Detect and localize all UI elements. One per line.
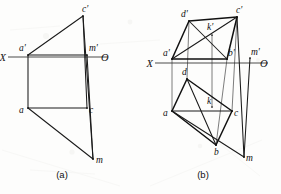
vertex-b-prime: [226, 58, 228, 60]
vertex-m-prime: [249, 57, 251, 59]
projector-cp-to-c: [232, 17, 237, 111]
point-label-b-prime: b': [228, 48, 236, 58]
point-label-a-prime: a': [163, 48, 171, 58]
vertex-d-prime: [188, 20, 190, 22]
point-label-m: m: [246, 153, 253, 163]
vertex-a: [171, 110, 173, 112]
vertex-c-prime: [236, 16, 238, 18]
panel-caption-a: (a): [56, 169, 68, 180]
vertex-a-prime: [171, 58, 173, 60]
vertex-c: [86, 107, 88, 109]
point-label-a: a: [19, 105, 24, 115]
vertex-k-prime: [211, 34, 213, 36]
panel-a: XOa'c'm'acm(a): [0, 4, 109, 180]
point-label-k-prime: k': [207, 22, 214, 32]
vertex-m-prime: [86, 54, 88, 56]
panel-b: XOd'c'k'a'b'm'dakcbm(b): [146, 5, 268, 180]
axis-label-x: X: [0, 52, 7, 63]
point-label-a-prime: a': [19, 43, 27, 53]
vertex-a: [27, 107, 29, 109]
vertex-m: [243, 156, 245, 158]
vertex-b: [215, 144, 217, 146]
vertex-m: [92, 158, 94, 160]
point-label-m: m: [96, 155, 103, 165]
vertex-k: [211, 106, 213, 108]
edge-a-m: [28, 108, 93, 159]
axis-label-o: O: [260, 58, 268, 69]
edge-cp-m: [237, 17, 244, 157]
axis-label-o: O: [101, 52, 109, 63]
point-label-a: a: [163, 108, 168, 118]
projector-dp-to-d: [187, 21, 189, 79]
vertex-c-prime: [82, 15, 84, 17]
vertex-d: [186, 78, 188, 80]
edge-ap-cp: [28, 16, 83, 55]
point-label-d-prime: d': [181, 9, 189, 19]
edge-dp-cp: [189, 17, 237, 21]
vertex-c: [231, 110, 233, 112]
edge-a-d: [172, 79, 187, 111]
figure-canvas: XOa'c'm'acm(a)XOd'c'k'a'b'm'dakcbm(b): [0, 0, 281, 194]
point-label-m-prime: m': [89, 43, 99, 53]
edge-mp-m: [244, 58, 250, 157]
projection-drawing: XOa'c'm'acm(a)XOd'c'k'a'b'm'dakcbm(b): [0, 0, 281, 194]
edge-b-a: [172, 111, 216, 145]
point-label-c: c: [234, 108, 239, 118]
axis-label-x: X: [146, 58, 154, 69]
point-label-k: k: [207, 96, 212, 106]
vertex-a-prime: [27, 54, 29, 56]
point-label-d: d: [182, 67, 187, 77]
point-label-c: c: [89, 105, 94, 115]
point-label-b: b: [214, 147, 219, 157]
point-label-m-prime: m': [251, 47, 261, 57]
point-label-c-prime: c': [236, 5, 243, 15]
point-label-c-prime: c': [82, 4, 89, 14]
panel-caption-b: (b): [197, 169, 209, 180]
